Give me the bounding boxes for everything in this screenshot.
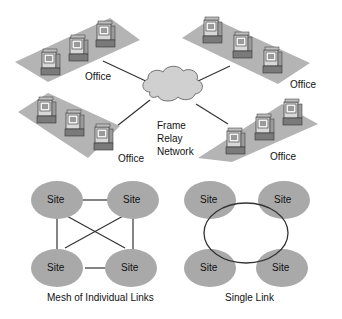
computer-icon bbox=[283, 99, 302, 125]
mesh-caption: Mesh of Individual Links bbox=[47, 292, 154, 303]
site-label: Site bbox=[274, 194, 292, 205]
single-link-ring bbox=[204, 203, 288, 263]
site-label: Site bbox=[47, 262, 65, 273]
site-label: Site bbox=[272, 262, 290, 273]
office-label: Office bbox=[290, 79, 316, 90]
office-label: Office bbox=[85, 71, 111, 82]
mesh-diagram: Site Site Site Site Mesh of Individual L… bbox=[31, 181, 159, 303]
computer-icon bbox=[203, 17, 222, 43]
office-bottom-right: Office bbox=[198, 99, 318, 162]
cloud-label-line-2: Relay bbox=[157, 133, 183, 144]
office-label: Office bbox=[270, 151, 296, 162]
cloud-label-line-1: Frame bbox=[157, 120, 186, 131]
site-label: Site bbox=[123, 194, 141, 205]
site-label: Site bbox=[200, 194, 218, 205]
single-link-diagram: Site Site Site Site Single Link bbox=[184, 181, 310, 303]
single-link-caption: Single Link bbox=[225, 292, 275, 303]
frame-relay-cloud: Frame Relay Network bbox=[143, 66, 203, 157]
cloud-label-line-3: Network bbox=[157, 146, 195, 157]
site-label: Site bbox=[121, 262, 139, 273]
site-label: Site bbox=[200, 262, 218, 273]
office-label: Office bbox=[118, 153, 144, 164]
site-label: Site bbox=[47, 194, 65, 205]
diagram-canvas: Office Office Frame Relay Network Office… bbox=[0, 0, 342, 319]
office-bottom-left: Office bbox=[18, 93, 144, 164]
office-top-left: Office bbox=[15, 18, 140, 82]
